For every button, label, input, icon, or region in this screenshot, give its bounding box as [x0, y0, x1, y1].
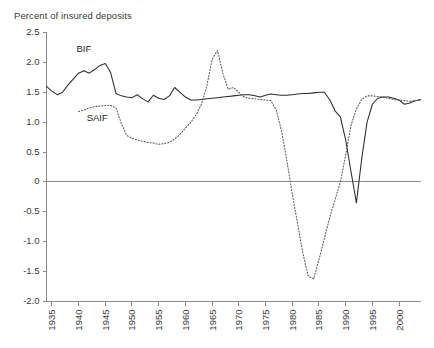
y-tick-label: 0	[34, 175, 39, 186]
chart-plot-area: 2.52.01.51.00.50-0.5-1.0-1.5-2.019351940…	[0, 0, 434, 348]
y-tick-label: 2.5	[26, 26, 39, 37]
x-tick-label: 1950	[126, 310, 137, 331]
y-tick-label: -0.5	[23, 205, 39, 216]
y-tick-label: -1.0	[23, 235, 39, 246]
y-tick-label: -2.0	[23, 295, 39, 306]
x-tick-label: 1960	[180, 310, 191, 331]
series-line-saif	[79, 50, 421, 278]
y-tick-label: -1.5	[23, 265, 39, 276]
series-label-bif: BIF	[77, 43, 92, 54]
x-tick-label: 1975	[260, 310, 271, 331]
x-tick-label: 1965	[207, 310, 218, 331]
y-tick-label: 2.0	[26, 56, 39, 67]
y-tick-label: 1.0	[26, 116, 39, 127]
chart-figure: Percent of insured deposits 2.52.01.51.0…	[0, 0, 434, 348]
x-tick-label: 2000	[394, 310, 405, 331]
y-tick-label: 0.5	[26, 146, 39, 157]
x-tick-label: 1955	[153, 310, 164, 331]
x-tick-label: 1980	[287, 310, 298, 331]
x-tick-label: 1970	[233, 310, 244, 331]
x-tick-label: 1995	[367, 310, 378, 331]
x-tick-label: 1985	[313, 310, 324, 331]
y-tick-label: 1.5	[26, 86, 39, 97]
x-tick-label: 1990	[340, 310, 351, 331]
series-label-saif: SAIF	[87, 112, 108, 123]
x-tick-label: 1940	[73, 310, 84, 331]
x-tick-label: 1945	[100, 310, 111, 331]
x-tick-label: 1935	[46, 310, 57, 331]
